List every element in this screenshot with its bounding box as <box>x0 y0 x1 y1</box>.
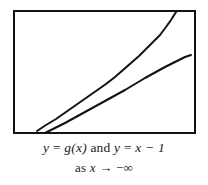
caption-g-of-x: g(x) <box>64 140 87 155</box>
line-x-minus-1 <box>45 55 191 133</box>
figure-container: y = g(x) and y = x − 1 as x → −∞ <box>0 0 208 185</box>
caption-as: as <box>75 160 86 175</box>
caption-line-1: y = g(x) and y = x − 1 <box>0 140 208 156</box>
caption-equals-2: = <box>124 140 132 155</box>
caption-x-minus-1: x − 1 <box>135 140 165 155</box>
caption-negative-infinity: −∞ <box>116 160 133 175</box>
caption-line-2: as x → −∞ <box>0 160 208 176</box>
caption-and: and <box>90 140 110 155</box>
plot-area <box>13 10 196 134</box>
caption-equals-1: = <box>53 140 61 155</box>
caption-arrow-icon: → <box>99 160 112 175</box>
